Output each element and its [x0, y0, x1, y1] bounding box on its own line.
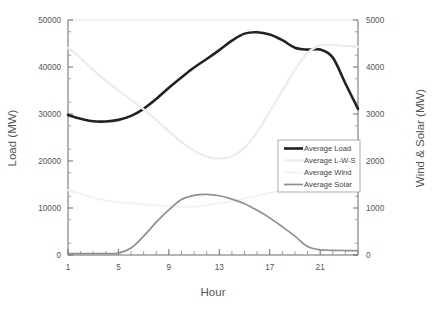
x-tick-label: 5 — [116, 263, 121, 272]
x-tick-label: 21 — [316, 263, 326, 272]
y-tick-label: 10000 — [38, 204, 61, 213]
legend-label: Average Solar — [304, 180, 352, 189]
y2-tick-label: 3000 — [366, 110, 385, 119]
chart-figure: 01000020000300004000050000 0100020003000… — [0, 0, 438, 311]
y2-axis-title: Wind & Solar (MW) — [414, 89, 426, 188]
y2-tick-label: 2000 — [366, 157, 385, 166]
x-axis-ticks: 159131721 — [66, 249, 358, 272]
legend-label: Average Wind — [304, 168, 352, 177]
series-line — [68, 194, 358, 253]
y2-tick-label: 5000 — [366, 16, 385, 25]
legend-label: Average L-W-S — [304, 156, 356, 165]
x-tick-label: 17 — [265, 263, 275, 272]
y2-tick-label: 1000 — [366, 204, 385, 213]
y2-tick-label: 4000 — [366, 63, 385, 72]
y-tick-label: 50000 — [38, 16, 61, 25]
y2-tick-label: 0 — [366, 251, 371, 260]
y-axis-title: Load (MW) — [6, 109, 18, 166]
y-tick-label: 0 — [56, 251, 61, 260]
chart-legend: Average LoadAverage L-W-SAverage WindAve… — [278, 140, 360, 192]
series-line — [68, 32, 358, 122]
load-wind-solar-line-chart: 01000020000300004000050000 0100020003000… — [0, 0, 438, 311]
y-tick-label: 20000 — [38, 157, 61, 166]
x-tick-label: 9 — [167, 263, 172, 272]
legend-label: Average Load — [304, 144, 351, 153]
y-tick-label: 40000 — [38, 63, 61, 72]
x-tick-label: 1 — [66, 263, 71, 272]
x-tick-label: 13 — [215, 263, 225, 272]
x-axis-title: Hour — [201, 286, 226, 298]
y-tick-label: 30000 — [38, 110, 61, 119]
